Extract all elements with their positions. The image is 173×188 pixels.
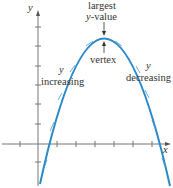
increasing-label: increasing xyxy=(41,76,84,87)
right-y-label: y xyxy=(146,60,151,71)
up-arrow-icon xyxy=(102,41,106,46)
y-axis-label: y xyxy=(28,2,33,13)
parabola-diagram xyxy=(0,0,173,188)
down-arrow-icon xyxy=(102,31,106,36)
y-axis-arrow-icon xyxy=(36,10,40,16)
vertex-label: vertex xyxy=(90,54,116,65)
x-axis-label: x xyxy=(163,144,168,155)
decreasing-label: decreasing xyxy=(126,72,171,83)
y-value-label: y-value xyxy=(86,11,117,22)
largest-label: largest xyxy=(88,0,116,11)
left-y-label: y xyxy=(59,64,64,75)
